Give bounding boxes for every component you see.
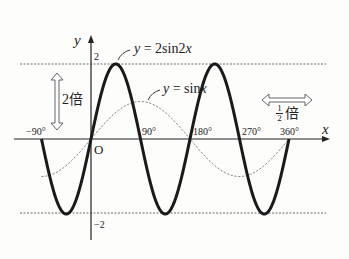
leader-2sin2x [118, 50, 130, 60]
y-tick-2: 2 [94, 52, 99, 62]
x-tick-360: 360° [280, 127, 299, 137]
x-axis-label: x [322, 122, 329, 137]
label-sinx-x: x [200, 81, 206, 96]
label-2sin2x: y = 2sin2x [134, 42, 192, 56]
stretch-num: 2 [62, 92, 69, 107]
stretch-kanji: 倍 [69, 92, 83, 107]
stretch-label: 2倍 [62, 93, 83, 107]
x-tick-90: 90° [142, 127, 156, 137]
y-tick-m2: −2 [94, 220, 105, 230]
x-tick-m90: −90° [26, 127, 46, 137]
y-axis-arrow-icon [88, 35, 94, 43]
half-kanji: 倍 [285, 107, 299, 121]
y-axis-label: y [74, 33, 81, 48]
label-sinx: y = sinx [163, 82, 207, 96]
x-tick-180: 180° [193, 127, 212, 137]
half-denominator: 2 [277, 114, 282, 123]
leader-sinx [148, 90, 160, 100]
half-numerator: 1 [277, 104, 282, 113]
half-fraction: 1 2 [276, 104, 283, 123]
label-2sin2x-x: x [185, 41, 191, 56]
origin-label: O [94, 143, 103, 156]
label-2sin2x-eq: = 2sin2 [140, 41, 185, 56]
sine-transformation-chart: y x O 2 −2 −90° 90° 180° 270° 360° y = 2… [0, 0, 349, 259]
x-tick-270: 270° [242, 127, 261, 137]
label-sinx-eq: = sin [169, 81, 200, 96]
half-label: 1 2 倍 [276, 104, 299, 123]
